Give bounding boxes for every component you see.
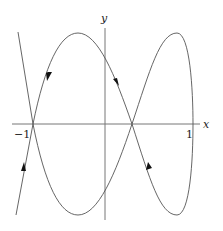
arrow-upper-middle — [113, 78, 119, 86]
arrow-lower-right — [146, 162, 152, 170]
x-tick-neg1: −1 — [14, 128, 30, 141]
arrow-upper-left — [46, 72, 52, 81]
x-axis-label: x — [203, 118, 210, 131]
phase-diagram: x y −1 1 — [0, 0, 223, 231]
y-axis-label: y — [100, 12, 108, 25]
x-tick-1: 1 — [186, 128, 193, 141]
